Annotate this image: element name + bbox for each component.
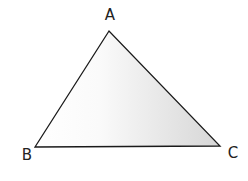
- vertex-label-c: C: [228, 144, 238, 162]
- triangle-diagram: A B C: [0, 0, 248, 181]
- vertex-label-a: A: [105, 6, 116, 24]
- vertex-label-b: B: [22, 146, 32, 164]
- triangle-canvas: A B C: [0, 0, 248, 181]
- triangle-abc: [35, 31, 220, 147]
